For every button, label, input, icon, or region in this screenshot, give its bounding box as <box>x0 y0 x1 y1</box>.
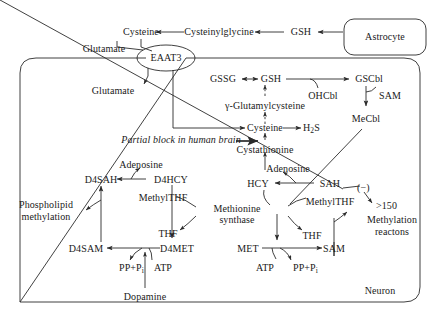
metabolite-atp-right: ATP <box>256 262 274 273</box>
metabolite-gsh-neuron: GSH <box>261 73 281 84</box>
metabolite-d4met: D4MET <box>160 243 194 254</box>
arrow-inhibition-to-threshold <box>364 192 372 203</box>
annotation-ratio-threshold: >150 <box>376 200 397 211</box>
metabolite-thf-right: THF <box>302 230 321 241</box>
metabolite-gsh-astrocyte: GSH <box>291 26 311 37</box>
curve-sam-into-gscbl-mecbl <box>366 87 376 92</box>
annotation-methylation-reactions-line1: Methylation <box>367 214 417 225</box>
astrocyte-label: Astrocyte <box>365 31 405 42</box>
metabolite-cystathionine: Cystathionine <box>237 144 294 155</box>
metabolite-glutamate-extracellular: Glutamate <box>83 43 126 54</box>
pathway-diagram-figure: Astrocyte GSH Cysteinylglycine Cysteine … <box>0 0 440 327</box>
annotation-methylation-reactions-line2: reactons <box>375 226 409 237</box>
annotation-phospholipid-line2: methylation <box>22 211 71 222</box>
eaat3-label: EAAT3 <box>150 52 181 63</box>
metabolite-atp-left: ATP <box>154 262 172 273</box>
neuron-compartment-outline <box>20 58 420 302</box>
metabolite-ppi-right: PP+Pi <box>293 262 318 276</box>
metabolite-thf-left: THF <box>158 228 177 239</box>
metabolite-sah: SAH <box>320 178 340 189</box>
curve-ohcbl-into-gsh-gscbl <box>310 79 318 88</box>
curve-to-methylation-reactions <box>334 212 347 222</box>
metabolite-cysteine-mid: Cysteine <box>247 122 283 133</box>
metabolite-hcy: HCY <box>247 178 268 189</box>
metabolite-adenosine-right: Adenosine <box>266 163 310 174</box>
metabolite-mecbl: MeCbl <box>352 113 380 124</box>
pathway-diagram-canvas <box>0 0 440 327</box>
metabolite-methylthf-left: MethylTHF <box>139 192 188 203</box>
metabolite-methylthf-right: MethylTHF <box>306 196 355 207</box>
annotation-partial-block: Partial block in human brain <box>121 134 240 145</box>
metabolite-adenosine-left: Adenosine <box>119 159 163 170</box>
curve-synthase-to-thf-left <box>180 216 196 230</box>
metabolite-d4sam: D4SAM <box>69 243 103 254</box>
curve-synthase-to-thf-right <box>288 216 302 230</box>
methionine-synthase-label-line2: synthase <box>219 214 254 225</box>
curve-atp-right-into-met-sam <box>272 248 276 259</box>
metabolite-gscbl: GSCbl <box>355 73 383 84</box>
metabolite-cysteinylglycine: Cysteinylglycine <box>184 26 253 37</box>
curve-met-sam-to-ppi-right <box>280 248 291 260</box>
metabolite-glutamate-intracellular: Glutamate <box>92 85 135 96</box>
curve-methylthf-right-into-synthase <box>288 198 306 206</box>
annotation-phospholipid-line1: Phospholipid <box>19 199 73 210</box>
metabolite-cysteine-top: Cysteine <box>123 26 159 37</box>
metabolite-gamma-glutamylcysteine: γ-Glutamylcysteine <box>225 100 305 111</box>
metabolite-d4sah: D4SAH <box>85 174 118 185</box>
methionine-synthase-label-line1: Methionine <box>213 203 260 214</box>
metabolite-dopamine: Dopamine <box>124 291 166 302</box>
metabolite-gssg: GSSG <box>210 73 236 84</box>
metabolite-ppi-left: PP+Pi <box>119 262 144 276</box>
metabolite-met: MET <box>237 243 258 254</box>
curve-d4met-d4sam-to-ppi-left <box>130 248 142 260</box>
metabolite-sam: SAM <box>323 243 345 254</box>
metabolite-ohcbl: OHCbl <box>308 90 337 101</box>
metabolite-d4hcy: D4HCY <box>154 174 188 185</box>
curve-atp-left-into-d4met-d4sam <box>149 248 152 260</box>
metabolite-sam-cobalamin: SAM <box>379 90 401 101</box>
neuron-label: Neuron <box>365 285 396 296</box>
curve-hcy-into-synthase <box>264 190 270 205</box>
annotation-inhibition-sign: (−) <box>357 182 370 193</box>
metabolite-h2s: H2S <box>303 122 320 136</box>
